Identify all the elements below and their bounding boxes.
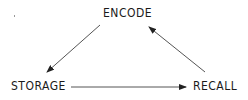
node-recall: RECALL	[193, 79, 237, 93]
arrow-encode-to-storage	[47, 25, 100, 72]
node-storage: STORAGE	[11, 79, 66, 93]
node-encode: ENCODE	[103, 6, 152, 20]
arrow-recall-to-encode	[149, 27, 205, 72]
